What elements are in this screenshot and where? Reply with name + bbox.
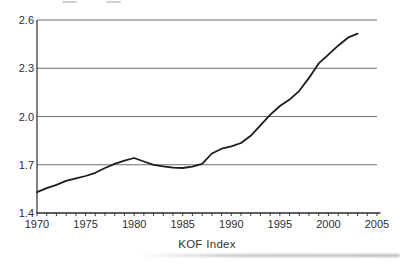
- y-tick-label: 2.0: [19, 111, 34, 123]
- x-tick-label: 2000: [316, 218, 340, 230]
- cropped-text-remnant: [106, 1, 121, 3]
- x-tick-label: 1990: [219, 218, 243, 230]
- scan-page-shadow: [140, 254, 400, 257]
- x-axis-title: KOF Index: [37, 238, 377, 250]
- kof-index-series-line: [37, 34, 358, 192]
- x-tick-label: 1995: [268, 218, 292, 230]
- kof-index-line-chart: 1.41.72.02.32.61970197519801985199019952…: [0, 0, 400, 263]
- chart-canvas: 1.41.72.02.32.61970197519801985199019952…: [0, 0, 400, 263]
- x-tick-label: 2005: [365, 218, 389, 230]
- x-tick-label: 1970: [25, 218, 49, 230]
- x-tick-label: 1985: [170, 218, 194, 230]
- y-tick-label: 2.3: [19, 62, 34, 74]
- y-tick-label: 2.6: [19, 14, 34, 26]
- x-tick-label: 1980: [122, 218, 146, 230]
- y-tick-label: 1.7: [19, 159, 34, 171]
- x-tick-label: 1975: [73, 218, 97, 230]
- cropped-text-remnant: [62, 1, 77, 3]
